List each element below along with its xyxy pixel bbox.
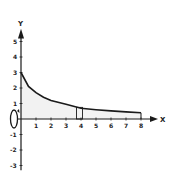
- solid-of-revolution-diagram: 1234567854321-1-2-3 X Y: [0, 0, 177, 182]
- rotation-arrowhead: [17, 109, 20, 113]
- y-tick-label: 3: [13, 69, 17, 76]
- y-tick-label: 1: [13, 100, 17, 107]
- y-tick-label: 5: [13, 38, 17, 45]
- x-tick-label: 1: [34, 122, 38, 129]
- x-axis-arrow-icon: [150, 116, 158, 122]
- y-tick-label: -1: [10, 131, 17, 138]
- y-tick-label: -2: [10, 146, 17, 153]
- y-axis-arrow-icon: [18, 29, 24, 39]
- x-tick-label: 4: [79, 122, 83, 129]
- y-tick-label: 4: [13, 53, 17, 60]
- y-tick-label: -3: [10, 162, 17, 169]
- x-tick-label: 8: [139, 122, 143, 129]
- x-tick-label: 3: [64, 122, 68, 129]
- x-tick-label: 7: [124, 122, 128, 129]
- y-axis-label: Y: [17, 20, 24, 28]
- x-tick-label: 5: [94, 122, 98, 129]
- y-tick-label: 2: [13, 84, 17, 91]
- rotation-ellipse: [11, 110, 18, 128]
- x-tick-label: 2: [49, 122, 53, 129]
- x-tick-label: 6: [109, 122, 113, 129]
- x-axis-label: X: [160, 116, 166, 124]
